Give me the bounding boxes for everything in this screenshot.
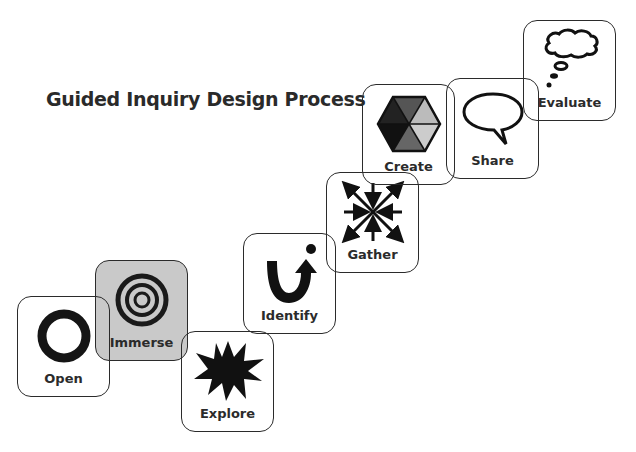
hexagon-icon bbox=[363, 91, 454, 157]
stage-label: Open bbox=[18, 371, 109, 386]
stage-create: Create bbox=[362, 84, 455, 185]
diagram-title: Guided Inquiry Design Process bbox=[46, 88, 366, 110]
stage-identify: Identify bbox=[243, 233, 336, 334]
stage-label: Evaluate bbox=[524, 95, 615, 110]
stage-label: Create bbox=[363, 159, 454, 174]
stage-label: Share bbox=[447, 153, 538, 168]
ring-icon bbox=[18, 303, 109, 369]
thought-bubble-icon bbox=[524, 27, 615, 93]
stage-gather: Gather bbox=[326, 172, 419, 273]
u-turn-arrow-icon bbox=[244, 240, 335, 306]
converging-arrows-icon bbox=[327, 179, 418, 245]
stage-label: Gather bbox=[327, 247, 418, 262]
stage-label: Identify bbox=[244, 308, 335, 323]
stage-open: Open bbox=[17, 296, 110, 397]
stage-explore: Explore bbox=[181, 331, 274, 432]
starburst-icon bbox=[182, 338, 273, 404]
stage-label: Explore bbox=[182, 406, 273, 421]
stage-evaluate: Evaluate bbox=[523, 20, 616, 121]
